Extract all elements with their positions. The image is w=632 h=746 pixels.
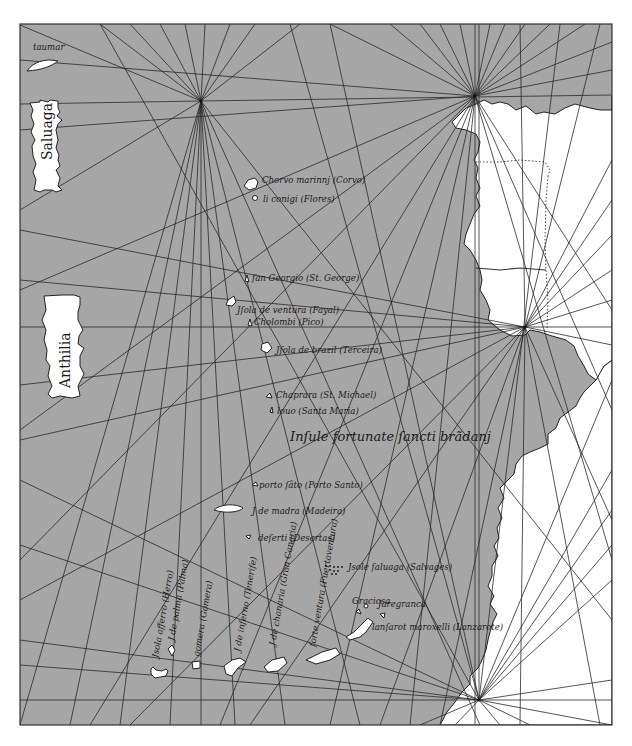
alegranza-island [364,604,368,608]
sao-miguel-label: Chaprara (St. Michael) [276,390,376,400]
saluaga-label: Saluaga [39,103,55,160]
pico-label: Cholombi (Pico) [254,317,324,327]
portolan-chart: Saluaga taumar Anthilia Chorvo marinnj (… [0,0,632,746]
porto-santo-label: porto ſãto (Porto Santo) [259,480,363,490]
corvo-label: Chorvo marinnj (Corvo) [262,175,365,185]
flores-label: li conigi (Flores) [263,194,335,204]
sao-jorge-label: ſan Georgio (St. George) [251,273,359,283]
selvagens-label: Jsole ſaluaga (Salvages) [346,562,452,572]
flores-island [253,196,258,201]
wind-rose-e [523,325,526,328]
alegranza-label: Jaregranca [376,599,426,609]
gomera-island [192,661,200,669]
wind-rose-s [477,698,480,701]
biscay-sea [470,24,612,104]
madeira-label: J de madra (Madeira) [250,506,345,516]
anthilia-label: Anthilia [57,332,73,389]
wind-rose-n [473,94,476,97]
santa-maria-label: louo (Santa Maria) [277,406,359,416]
lanzarote-label: lanſarot maroxelli (Lanzarote) [372,622,503,632]
terceira-label: Jſola de brazil (Terceira) [274,345,382,355]
wind-rose-nw [199,99,202,102]
saint-brendan-label: Inſule fortunate ſancti brãdanj [289,429,491,444]
taumar-label: taumar [33,42,65,52]
faial-label: Jſola de ventura (Fayal) [235,305,339,315]
